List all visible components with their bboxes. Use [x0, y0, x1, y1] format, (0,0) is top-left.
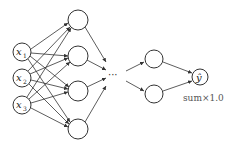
hidden-last-node-1 [145, 50, 163, 68]
svg-text:ŷ: ŷ [195, 72, 202, 83]
input-node-x1: x 1 [13, 43, 31, 61]
edges-ellipsis-to-hidden-last [126, 62, 144, 91]
svg-text:x: x [16, 72, 22, 83]
svg-text:3: 3 [23, 105, 27, 112]
neural-network-diagram: ··· x 1 x 2 x 3 [0, 0, 229, 146]
output-layer: ŷ sum×1.0 [183, 69, 224, 103]
hidden-layer-1 [68, 10, 88, 139]
hidden1-node-4 [68, 119, 88, 139]
hidden1-node-2 [68, 46, 88, 66]
hidden1-node-1 [68, 10, 88, 30]
input-layer: x 1 x 2 x 3 [13, 43, 31, 114]
output-node-yhat: ŷ [192, 69, 208, 85]
ellipsis: ··· [108, 69, 118, 80]
input-node-x3: x 3 [13, 96, 31, 114]
svg-text:x: x [16, 46, 22, 57]
edges-hidden-last-to-output [163, 62, 192, 91]
svg-text:2: 2 [23, 78, 27, 85]
hidden-last-node-2 [145, 85, 163, 103]
edges-hidden1-to-ellipsis [85, 27, 106, 122]
hidden-layer-last [145, 50, 163, 103]
hidden1-node-3 [68, 81, 88, 101]
input-node-x2: x 2 [13, 69, 31, 87]
svg-text:1: 1 [23, 52, 27, 59]
svg-text:x: x [16, 99, 22, 110]
output-annotation: sum×1.0 [183, 93, 224, 103]
edges-input-to-hidden1 [27, 23, 71, 127]
